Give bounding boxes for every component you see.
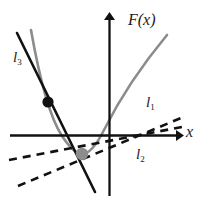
line-label-l2: l2	[136, 147, 145, 162]
graph-svg	[0, 0, 205, 204]
line-l3	[17, 33, 95, 192]
figure-canvas: F(x) x l3 l1 l2	[0, 0, 205, 204]
line-label-l2-sub: 2	[140, 154, 145, 164]
y-axis-label: F(x)	[128, 12, 156, 28]
line-label-l1-sub: 1	[150, 102, 155, 112]
point-gray	[76, 148, 88, 160]
point-black	[42, 96, 53, 107]
line-label-l1: l1	[146, 95, 155, 110]
line-l2	[9, 127, 182, 160]
line-label-l3-sub: 3	[17, 57, 22, 67]
y-axis-arrow	[104, 12, 115, 20]
line-l1	[18, 118, 181, 186]
x-axis-arrow	[176, 130, 184, 141]
x-axis-label: x	[186, 124, 193, 140]
line-label-l3: l3	[13, 50, 22, 65]
